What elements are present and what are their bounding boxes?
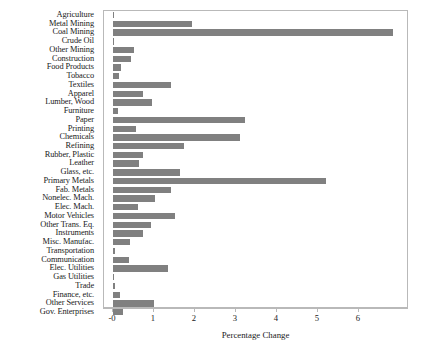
bar-row bbox=[104, 264, 407, 273]
bar-row bbox=[104, 46, 407, 55]
bar-row bbox=[104, 212, 407, 221]
bar-row bbox=[104, 28, 407, 37]
bar bbox=[113, 204, 138, 210]
bar-row bbox=[104, 203, 407, 212]
bar-row bbox=[104, 186, 407, 195]
bar-row bbox=[104, 20, 407, 29]
bar-row bbox=[104, 55, 407, 64]
bar bbox=[113, 257, 129, 263]
bar-row bbox=[104, 107, 407, 116]
bar-row bbox=[104, 133, 407, 142]
bar bbox=[113, 187, 171, 193]
bar-row bbox=[104, 282, 407, 291]
bar bbox=[113, 265, 168, 271]
bar-row bbox=[104, 256, 407, 265]
bar-row bbox=[104, 221, 407, 230]
x-tick-mark bbox=[235, 308, 236, 312]
bar-row bbox=[104, 72, 407, 81]
x-tick-label: 1 bbox=[141, 313, 165, 323]
bar bbox=[113, 178, 326, 184]
bar bbox=[113, 134, 240, 140]
bar bbox=[113, 292, 120, 298]
x-tick-mark bbox=[194, 308, 195, 312]
x-tick-label: -0 bbox=[100, 313, 124, 323]
bar-row bbox=[104, 151, 407, 160]
category-axis-labels: AgricultureMetal MiningCoal MiningCrude … bbox=[0, 11, 98, 308]
bar bbox=[113, 213, 175, 219]
bar-row bbox=[104, 37, 407, 46]
bar bbox=[113, 143, 184, 149]
bar bbox=[113, 21, 192, 27]
bar bbox=[113, 91, 143, 97]
bar bbox=[113, 12, 114, 18]
bar bbox=[113, 169, 180, 175]
bar-row bbox=[104, 63, 407, 72]
bar bbox=[113, 64, 121, 70]
bar bbox=[113, 239, 130, 245]
x-axis-line bbox=[103, 308, 408, 309]
bar-row bbox=[104, 142, 407, 151]
bar bbox=[113, 152, 143, 158]
bar bbox=[113, 56, 131, 62]
bar bbox=[113, 222, 151, 228]
x-axis-title: Percentage Change bbox=[103, 330, 408, 340]
x-tick-label: 3 bbox=[223, 313, 247, 323]
bar-row bbox=[104, 238, 407, 247]
bar-row bbox=[104, 299, 407, 308]
bar-row bbox=[104, 273, 407, 282]
bar bbox=[113, 117, 245, 123]
bar bbox=[113, 99, 152, 105]
plot-area bbox=[104, 11, 407, 307]
bar-chart: AgricultureMetal MiningCoal MiningCrude … bbox=[0, 0, 428, 353]
bar bbox=[113, 73, 119, 79]
bar-row bbox=[104, 177, 407, 186]
bar bbox=[113, 82, 171, 88]
bar bbox=[113, 283, 115, 289]
bar-row bbox=[104, 168, 407, 177]
bar bbox=[113, 126, 136, 132]
x-tick-mark bbox=[153, 308, 154, 312]
bar-row bbox=[104, 90, 407, 99]
bar-row bbox=[104, 125, 407, 134]
bar bbox=[113, 38, 114, 44]
bar bbox=[113, 195, 155, 201]
bar-row bbox=[104, 98, 407, 107]
bar-row bbox=[104, 247, 407, 256]
bar-row bbox=[104, 291, 407, 300]
bar-row bbox=[104, 194, 407, 203]
category-label: Gov. Enterprises bbox=[0, 308, 98, 317]
x-tick-mark bbox=[358, 308, 359, 312]
bar bbox=[113, 248, 115, 254]
bar-row bbox=[104, 116, 407, 125]
bar bbox=[113, 47, 134, 53]
x-tick-label: 6 bbox=[346, 313, 370, 323]
x-tick-label: 4 bbox=[264, 313, 288, 323]
plot-frame bbox=[103, 10, 408, 308]
bar bbox=[113, 230, 143, 236]
x-tick-label: 2 bbox=[182, 313, 206, 323]
x-tick-mark bbox=[112, 308, 113, 312]
bar-row bbox=[104, 11, 407, 20]
x-tick-mark bbox=[276, 308, 277, 312]
x-tick-label: 5 bbox=[305, 313, 329, 323]
bar bbox=[113, 274, 114, 280]
bar bbox=[113, 300, 154, 306]
bar-row bbox=[104, 229, 407, 238]
bar-row bbox=[104, 159, 407, 168]
bar bbox=[113, 160, 139, 166]
bar bbox=[113, 108, 118, 114]
x-tick-mark bbox=[317, 308, 318, 312]
bar-row bbox=[104, 81, 407, 90]
bar bbox=[113, 29, 393, 35]
